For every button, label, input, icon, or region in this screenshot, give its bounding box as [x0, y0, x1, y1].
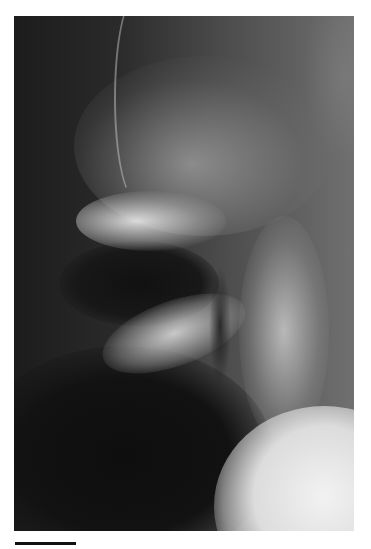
airway [209, 266, 231, 386]
maxilla-teeth [76, 191, 226, 251]
xray-image [14, 16, 354, 531]
scale-bar [15, 542, 76, 545]
